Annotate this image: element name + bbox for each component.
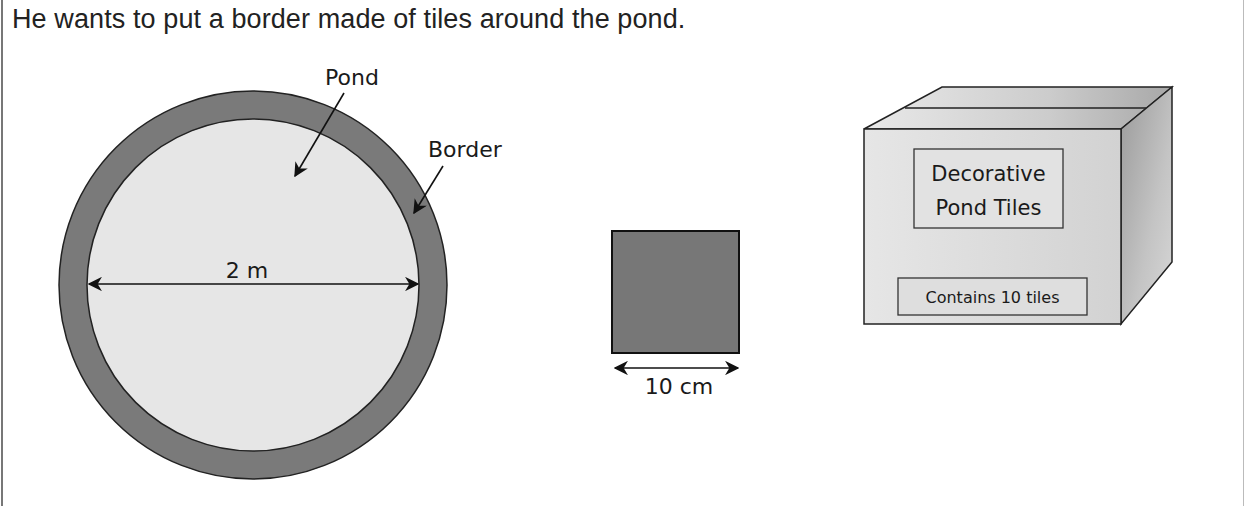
- pond-label: Pond: [325, 65, 379, 90]
- box-title-line2: Pond Tiles: [936, 196, 1042, 220]
- box-side-face: [1121, 87, 1172, 324]
- tile-square: [612, 231, 739, 353]
- tile-figure: 10 cm: [612, 231, 739, 399]
- tile-width-label: 10 cm: [645, 374, 714, 399]
- box-title-line1: Decorative: [931, 162, 1045, 186]
- pond-figure: 2 m Pond Border: [59, 65, 503, 479]
- diameter-label: 2 m: [226, 258, 268, 283]
- box-contents-label: Contains 10 tiles: [926, 288, 1060, 307]
- diagram-canvas: 2 m Pond Border 10 cm Decorative Pond Ti…: [0, 0, 1245, 506]
- border-label: Border: [428, 137, 503, 162]
- tile-box-figure: Decorative Pond Tiles Contains 10 tiles: [864, 87, 1172, 324]
- pond-water: [87, 119, 419, 451]
